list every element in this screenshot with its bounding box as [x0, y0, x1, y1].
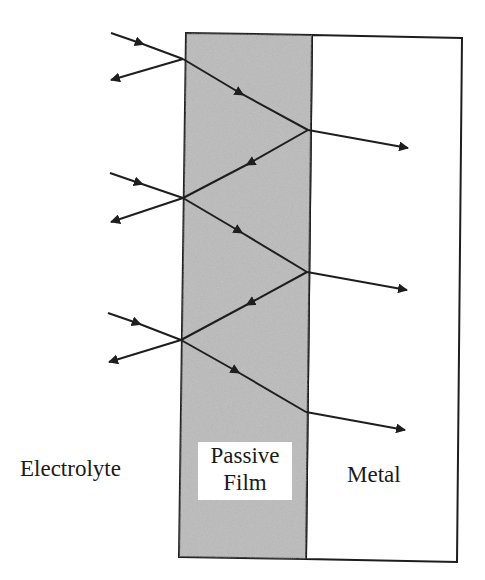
passive-film-label-line2: Film [198, 469, 292, 496]
reflected-ray [109, 340, 181, 362]
incident-ray [108, 313, 181, 340]
metal-label: Metal [347, 462, 401, 488]
electrolyte-label: Electrolyte [20, 456, 121, 482]
reflected-ray [111, 59, 183, 80]
incident-ray [111, 33, 183, 59]
reflected-ray [111, 198, 183, 222]
incident-ray [110, 173, 183, 198]
passive-film-label: Passive Film [198, 442, 292, 500]
passive-film-label-line1: Passive [198, 442, 292, 469]
